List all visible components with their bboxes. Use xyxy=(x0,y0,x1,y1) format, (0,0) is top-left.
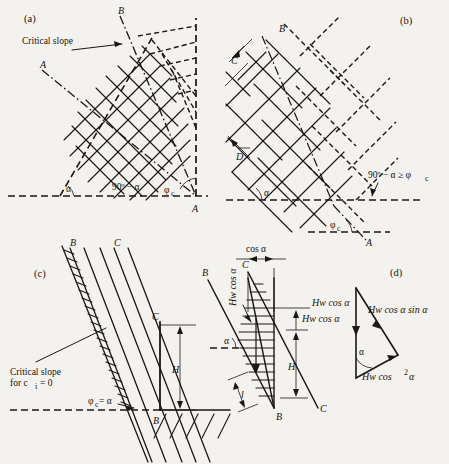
panel-b-inequality-subscript: c xyxy=(425,174,429,183)
panel-c-critical-slope-line3: = 0 xyxy=(40,378,53,388)
panel-mid-alpha-label: α xyxy=(224,336,229,346)
panel-a-ninety-minus-alpha-label: 90º − α xyxy=(112,182,140,192)
panel-a-point-a-left-label: A xyxy=(39,59,47,70)
panel-a-point-a-right-label: A xyxy=(191,203,199,214)
panel-a-critical-slope-label: Critical slope xyxy=(22,36,73,46)
panel-c-point-b-top-label: B xyxy=(70,237,76,248)
panel-mid-height-label: H xyxy=(287,361,296,372)
panel-mid-point-b-top-label: B xyxy=(202,267,208,278)
panel-mid-cos-alpha-label: cos α xyxy=(246,244,266,254)
panel-c-tag: (c) xyxy=(34,268,46,280)
panel-a-phi-subscript: c xyxy=(171,189,175,198)
panel-c-point-c-top-label: C xyxy=(114,237,121,248)
panel-c-phi-label: φ xyxy=(88,396,94,406)
panel-mid-point-b-bottom-label: B xyxy=(276,411,282,422)
panel-d-vector-left-label: Hw cos α xyxy=(301,313,340,324)
panel-mid-point-c-bottom-label: C xyxy=(320,403,327,414)
panel-mid-thickness-label: l xyxy=(241,389,244,400)
panel-c-point-c-right-label: C xyxy=(152,311,159,322)
panel-mid-hw-cos-alpha-right-label: Hw cos α xyxy=(311,297,350,308)
panel-a-point-b-label: B xyxy=(118,5,124,16)
panel-c-height-label: H xyxy=(171,364,180,375)
figure-background xyxy=(0,0,449,464)
panel-mid-hw-cos-alpha-vertical-label: Hw cos α xyxy=(227,268,238,307)
panel-c-critical-slope-line2: for c xyxy=(10,378,28,388)
panel-d-vector-base-alpha: α xyxy=(409,371,415,382)
panel-b-inequality-label: 90º − α ≥ φ xyxy=(368,170,411,180)
panel-d-alpha-label: α xyxy=(359,347,364,357)
panel-b-point-b-label: B xyxy=(279,23,285,34)
panel-b-tag: (b) xyxy=(400,15,413,27)
panel-b-alpha-label: α xyxy=(264,188,269,198)
panel-b-point-a-label: A xyxy=(365,237,373,248)
panel-a-phi-label: φ xyxy=(164,185,170,195)
panel-d-vector-base-label: Hw cos xyxy=(361,371,392,382)
panel-d-vector-base-exponent: 2 xyxy=(404,368,408,377)
panel-c-point-b-bottom-label: B xyxy=(153,415,159,426)
panel-b-spacing-C-label: C xyxy=(231,55,238,66)
panel-d-vector-hyp-label: Hw cos α sin α xyxy=(367,304,428,315)
panel-a-alpha-label: α xyxy=(66,184,71,194)
panel-b-phi-label: φ xyxy=(330,220,336,230)
panel-a-tag: (a) xyxy=(24,13,36,25)
figure-canvas: Critical slope B A A α 90º − α φ c (a) xyxy=(0,0,449,464)
panel-c-phi-rest: = α xyxy=(99,396,112,406)
panel-b-spacing-D-label: D xyxy=(235,151,244,162)
panel-d-tag: (d) xyxy=(390,267,403,279)
panel-mid-point-c-top-label: C xyxy=(242,259,249,270)
panel-b-phi-subscript: c xyxy=(337,224,341,233)
panel-c-critical-slope-line1: Critical slope xyxy=(10,367,61,377)
